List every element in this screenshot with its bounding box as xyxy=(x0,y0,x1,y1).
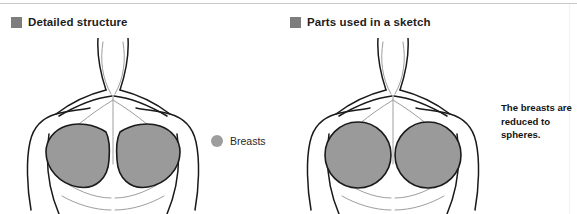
right-abdomen-line xyxy=(115,196,164,210)
right-abdomen-line xyxy=(395,196,444,210)
panel-caption-label: Parts used in a sketch xyxy=(307,16,431,28)
right-trapezius-line xyxy=(120,90,170,114)
panel-caption-detailed-structure: Detailed structure xyxy=(11,16,128,28)
left-neck-muscle-line xyxy=(102,42,111,94)
top-divider xyxy=(0,3,577,4)
left-breast-shape-detailed xyxy=(46,124,109,187)
left-neck-muscle-line xyxy=(382,42,391,94)
right-neck-muscle-line xyxy=(395,42,404,94)
annotation-note: The breasts are reduced to spheres. xyxy=(501,101,575,142)
filled-square-icon xyxy=(290,17,301,28)
right-trapezius-line xyxy=(400,90,450,114)
panel-caption-parts-used-in-a-sketch: Parts used in a sketch xyxy=(290,16,431,28)
anatomy-comparison-figure: Detailed structure Parts used in a sketc… xyxy=(0,0,577,214)
left-trapezius-line xyxy=(56,90,106,114)
right-breast-sphere xyxy=(395,122,461,188)
left-breast-sphere xyxy=(325,122,391,188)
left-abdomen-line xyxy=(62,196,111,210)
torso-illustration-sketch xyxy=(298,38,488,214)
torso-illustration-detailed xyxy=(18,38,208,214)
legend-label: Breasts xyxy=(230,135,266,147)
left-trapezius-line xyxy=(336,90,386,114)
filled-circle-icon xyxy=(211,135,223,147)
panel-caption-label: Detailed structure xyxy=(28,16,128,28)
filled-square-icon xyxy=(11,17,22,28)
right-neck-muscle-line xyxy=(115,42,124,94)
legend-breasts: Breasts xyxy=(211,135,266,147)
right-breast-shape-detailed xyxy=(117,124,180,187)
left-abdomen-line xyxy=(342,196,391,210)
